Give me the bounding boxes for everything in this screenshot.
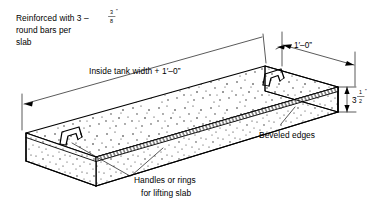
reinforcement-inch-mark: ” bbox=[116, 8, 118, 14]
thickness-fraction-denominator: 2 bbox=[359, 98, 362, 104]
beveled-edges-label: Beveled edges bbox=[259, 130, 315, 140]
reinforcement-note-line3: slab bbox=[16, 37, 32, 47]
overhang-dimension-label: 1′–0” bbox=[294, 41, 312, 50]
handles-label: Handles or rings for lifting slab bbox=[134, 175, 196, 198]
thickness-dimension-label: 3 1 2 ” bbox=[352, 88, 367, 105]
thickness-whole-number: 3 bbox=[352, 96, 357, 105]
thickness-fraction-numerator: 1 bbox=[359, 89, 362, 95]
reinforcement-note-line2: round bars per bbox=[16, 25, 71, 35]
slab-body bbox=[26, 66, 338, 186]
reinforcement-note: Reinforced with 3 – 3 8 ” round bars per… bbox=[16, 8, 118, 47]
inside-tank-width-label: Inside tank width + 1′–0” bbox=[89, 66, 181, 76]
handles-label-line2: for lifting slab bbox=[141, 188, 191, 198]
reinforcement-fraction-denominator: 8 bbox=[110, 18, 113, 24]
isometric-slab-drawing: Reinforced with 3 – 3 8 ” round bars per… bbox=[0, 0, 373, 212]
slab-drawing-canvas: Reinforced with 3 – 3 8 ” round bars per… bbox=[0, 0, 373, 212]
handles-label-line1: Handles or rings bbox=[134, 175, 196, 185]
reinforcement-fraction-numerator: 3 bbox=[110, 9, 113, 15]
reinforcement-note-line1: Reinforced with 3 – bbox=[16, 13, 89, 23]
thickness-inch-mark: ” bbox=[365, 88, 367, 94]
